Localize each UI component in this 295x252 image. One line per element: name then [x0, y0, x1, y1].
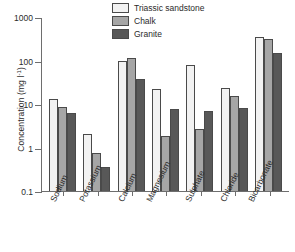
x-axis-tick	[166, 191, 167, 196]
y-axis-tick-label: 10	[24, 100, 33, 110]
legend-swatch	[112, 16, 129, 26]
bar-group: Calcium	[118, 18, 145, 191]
bar	[118, 61, 127, 191]
y-axis-tick-label: 0.1	[21, 187, 33, 197]
bar-group: Bicarbonate	[255, 18, 282, 191]
legend: Triassic sandstoneChalkGranite	[112, 3, 205, 39]
bar	[273, 53, 282, 191]
bar-group: Sodium	[49, 18, 76, 191]
legend-label: Triassic sandstone	[134, 3, 205, 13]
y-axis-tick	[35, 149, 42, 150]
bar-group: Potassium	[83, 18, 110, 191]
legend-swatch	[112, 3, 129, 13]
x-axis-tick	[98, 191, 99, 196]
y-axis-tick-label: 100	[19, 57, 33, 67]
legend-label: Granite	[134, 29, 162, 39]
x-axis-tick	[132, 191, 133, 196]
bar-group: Chloride	[221, 18, 248, 191]
legend-item: Granite	[112, 29, 205, 39]
y-axis-tick-label: 1000	[14, 13, 33, 23]
chart-container: Concentration (mg l-1) 10001001010.1 Sod…	[0, 0, 295, 252]
y-axis-tick	[35, 18, 42, 19]
bar	[204, 111, 213, 191]
bar-group: Sulphate	[186, 18, 213, 191]
x-axis-tick	[63, 191, 64, 196]
bar	[239, 108, 248, 191]
y-axis-tick	[35, 62, 42, 63]
y-axis-tick	[35, 105, 42, 106]
x-axis-tick	[270, 191, 271, 196]
bar	[127, 58, 136, 191]
y-axis-tick-label: 1	[28, 144, 33, 154]
bar-groups: SodiumPotassiumCalciumMagnesiumSulphateC…	[42, 18, 289, 191]
bar	[101, 167, 110, 191]
x-axis-tick	[235, 191, 236, 196]
x-axis-tick	[201, 191, 202, 196]
plot-area: 10001001010.1 SodiumPotassiumCalciumMagn…	[41, 18, 289, 192]
y-axis-title-text: Concentration (mg l	[16, 76, 26, 152]
bar	[49, 99, 58, 191]
bar	[186, 65, 195, 191]
legend-item: Chalk	[112, 16, 205, 26]
legend-item: Triassic sandstone	[112, 3, 205, 13]
y-axis-title-tail: )	[16, 67, 26, 70]
bar	[170, 109, 179, 191]
bar-group: Magnesium	[152, 18, 179, 191]
legend-swatch	[112, 29, 129, 39]
legend-label: Chalk	[134, 16, 156, 26]
y-axis-title-exponent: -1	[16, 70, 22, 76]
y-axis-tick	[35, 192, 42, 193]
